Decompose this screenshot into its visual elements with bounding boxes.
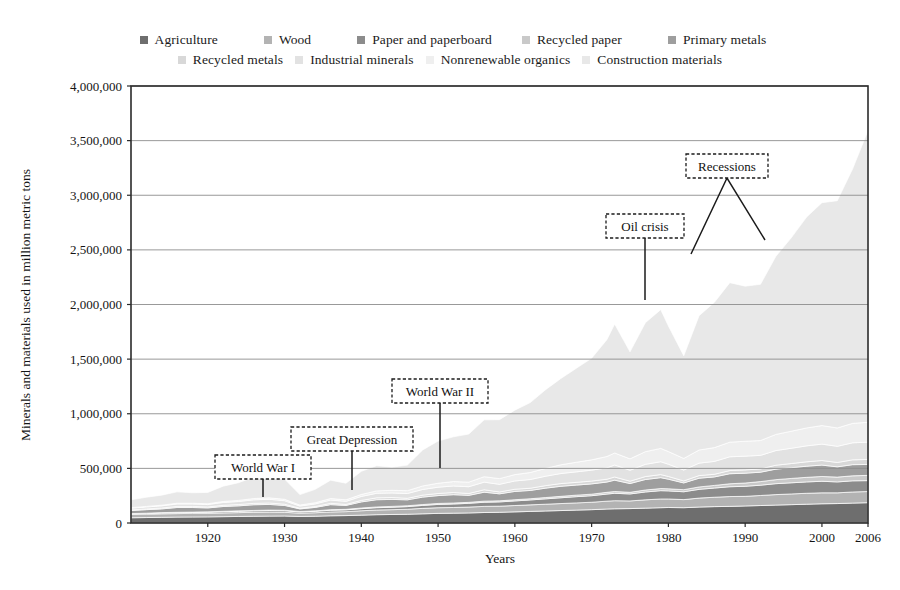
annotation-leader-fork (691, 178, 765, 254)
x-tick-label: 2006 (855, 530, 882, 545)
x-tick-label: 1970 (579, 530, 605, 545)
y-tick-label: 1,000,000 (70, 406, 122, 421)
x-axis-title: Years (485, 551, 515, 566)
annotation-label: Great Depression (307, 432, 398, 447)
x-tick-label: 1980 (655, 530, 681, 545)
y-axis: 0500,0001,000,0001,500,0002,000,0002,500… (70, 79, 131, 531)
x-tick-label: 1990 (732, 530, 758, 545)
chart-figure: AgricultureWoodPaper and paperboardRecyc… (0, 0, 900, 590)
x-tick-label: 1930 (272, 530, 298, 545)
y-tick-label: 2,000,000 (70, 297, 122, 312)
y-tick-label: 3,500,000 (70, 133, 122, 148)
y-tick-label: 2,500,000 (70, 242, 122, 257)
y-tick-label: 0 (116, 516, 123, 531)
x-axis: 1920193019401950196019701980199020002006 (195, 523, 882, 545)
annotation-label: Oil crisis (621, 219, 668, 234)
annotation-label: World War I (231, 460, 295, 475)
chart-canvas: 0500,0001,000,0001,500,0002,000,0002,500… (0, 0, 900, 590)
annotation-label: Recessions (698, 159, 756, 174)
y-tick-label: 1,500,000 (70, 352, 122, 367)
x-tick-label: 1960 (502, 530, 528, 545)
annotation-label: World War II (406, 384, 474, 399)
x-tick-label: 1950 (425, 530, 451, 545)
y-tick-label: 500,000 (80, 461, 122, 476)
y-tick-label: 4,000,000 (70, 79, 122, 94)
x-tick-label: 2000 (809, 530, 835, 545)
y-tick-label: 3,000,000 (70, 188, 122, 203)
y-axis-title: Minerals and materials used in million m… (18, 169, 33, 441)
x-tick-label: 1940 (348, 530, 374, 545)
x-tick-label: 1920 (195, 530, 221, 545)
